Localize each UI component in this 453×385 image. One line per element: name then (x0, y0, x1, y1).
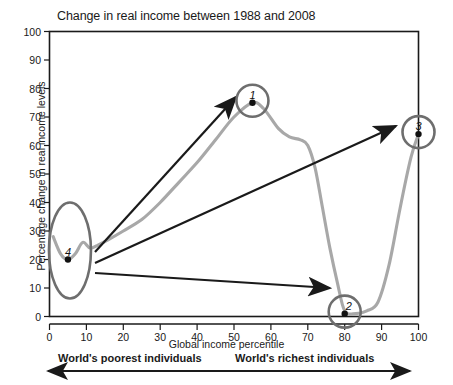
arrow-4-to-2 (95, 273, 330, 288)
y-axis-tick-labels: 100 90 80 70 60 50 40 30 20 10 0 (23, 26, 41, 323)
svg-text:50: 50 (228, 331, 240, 343)
svg-text:90: 90 (376, 331, 388, 343)
marker-4[interactable]: 4 (49, 203, 91, 299)
marker-1[interactable]: 1 (236, 85, 268, 117)
x-axis-tick-labels: 0 10 20 30 40 50 60 70 80 90 100 (47, 331, 428, 343)
svg-text:50: 50 (29, 168, 41, 180)
y-axis-ticks (44, 32, 50, 317)
svg-text:90: 90 (29, 54, 41, 66)
svg-text:100: 100 (23, 26, 41, 38)
svg-text:40: 40 (191, 331, 203, 343)
svg-text:0: 0 (35, 311, 41, 323)
arrow-4-to-1 (95, 97, 236, 252)
marker-2[interactable]: 2 (329, 296, 361, 328)
callout-arrows (95, 97, 396, 288)
marker-4-label: 4 (65, 246, 71, 258)
svg-text:0: 0 (47, 331, 53, 343)
chart-svg: 100 90 80 70 60 50 40 30 20 10 0 (0, 0, 453, 385)
svg-text:30: 30 (154, 331, 166, 343)
svg-text:20: 20 (29, 254, 41, 266)
svg-text:40: 40 (29, 197, 41, 209)
marker-1-label: 1 (249, 89, 255, 101)
svg-text:60: 60 (265, 331, 277, 343)
svg-text:80: 80 (339, 331, 351, 343)
svg-text:70: 70 (302, 331, 314, 343)
marker-3-label: 3 (415, 120, 422, 132)
marker-2-label: 2 (345, 300, 352, 312)
svg-text:30: 30 (29, 225, 41, 237)
svg-text:10: 10 (29, 282, 41, 294)
svg-text:10: 10 (81, 331, 93, 343)
svg-text:70: 70 (29, 111, 41, 123)
arrow-4-to-3 (95, 126, 396, 263)
svg-text:60: 60 (29, 140, 41, 152)
x-axis-ticks (50, 324, 419, 330)
svg-text:20: 20 (117, 331, 129, 343)
svg-text:80: 80 (29, 83, 41, 95)
svg-text:100: 100 (410, 331, 428, 343)
chart-container: Change in real income between 1988 and 2… (0, 0, 453, 385)
